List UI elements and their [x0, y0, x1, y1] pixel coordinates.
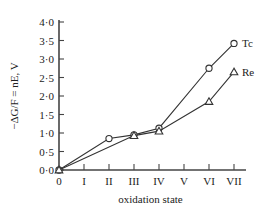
x-tick-label: III [129, 175, 140, 187]
series-tc [56, 40, 237, 173]
x-tick-label: 0 [56, 175, 62, 187]
x-tick-label: IV [153, 175, 165, 187]
y-tick-label: 4·0 [39, 16, 54, 28]
y-tick-label: 1·0 [39, 127, 54, 139]
legend: TcRe [242, 37, 254, 77]
y-tick-label: 2·5 [39, 72, 54, 84]
x-axis-title: oxidation state [118, 193, 183, 205]
y-tick-label: 0·5 [39, 146, 54, 158]
y-tick-label: 3·5 [39, 35, 54, 47]
series-line-re [59, 72, 234, 170]
x-tick-label: VII [226, 175, 242, 187]
y-axis-ticks: 0·00·51·01·52·02·53·03·54·0 [39, 16, 64, 176]
x-tick-label: II [105, 175, 113, 187]
x-tick-label: V [180, 175, 188, 187]
y-tick-label: 2·0 [39, 90, 54, 102]
series-re [55, 68, 238, 173]
legend-label-re: Re [242, 66, 254, 78]
x-tick-label: VI [203, 175, 215, 187]
x-tick-label: I [82, 175, 86, 187]
chart-plot-area: 0·00·51·01·52·02·53·03·54·0 0IIIIIIIVVVI… [0, 0, 270, 206]
data-point-tc [231, 40, 237, 46]
data-point-re [230, 68, 238, 75]
legend-label-tc: Tc [242, 37, 253, 49]
chart-container: 0·00·51·01·52·02·53·03·54·0 0IIIIIIIVVVI… [0, 0, 270, 206]
x-axis-ticks: 0IIIIIIIVVVIVII [56, 164, 242, 187]
y-tick-label: 1·5 [39, 109, 54, 121]
data-point-tc [206, 65, 212, 71]
y-tick-label: 0·0 [39, 164, 54, 176]
series-line-tc [59, 43, 234, 170]
y-tick-label: 3·0 [39, 53, 54, 65]
data-series-group [55, 40, 238, 173]
data-point-tc [106, 135, 112, 141]
y-axis-title: −ΔG/F = nE, V [8, 62, 20, 130]
